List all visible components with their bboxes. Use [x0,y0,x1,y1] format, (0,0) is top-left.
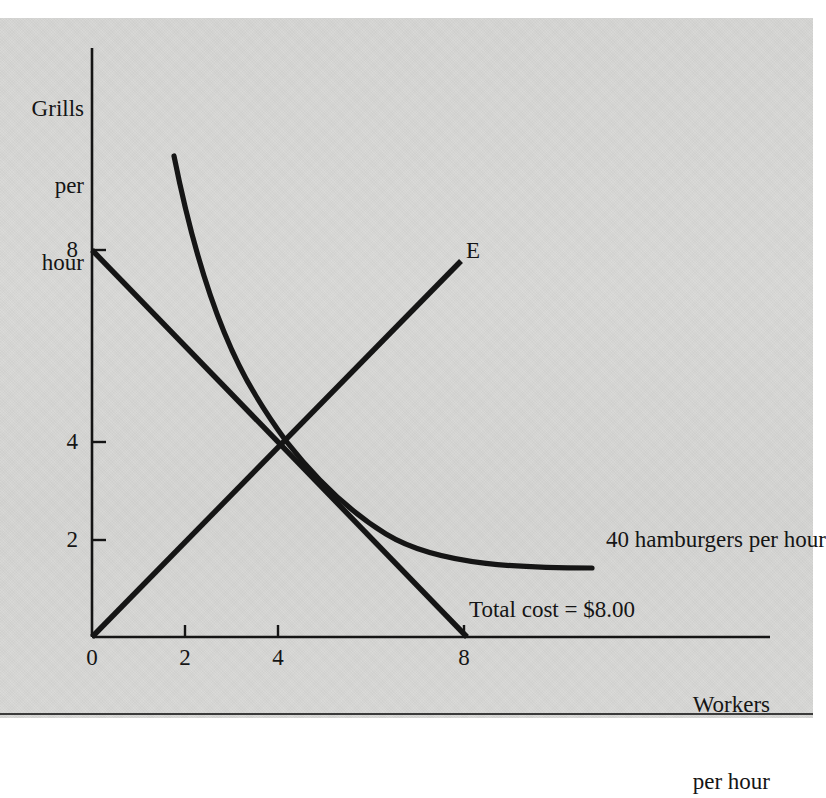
x-tick-label-8: 8 [448,645,480,671]
y-axis-ticks [92,250,106,540]
y-tick-label-4: 4 [48,429,78,455]
y-tick-label-2: 2 [48,527,78,553]
isoquant-curve [174,156,592,568]
y-tick-label-8: 8 [48,237,78,263]
y-axis-title-line-1: Grills [14,96,84,122]
isoquant-label: 40 hamburgers per hour [606,527,826,553]
page-bottom-margin [0,718,813,738]
isocost-label: Total cost = $8.00 [469,597,635,623]
expansion-path-line [92,261,461,637]
x-axis-title-line-2: per hour [600,769,770,795]
y-axis-title-line-2: per [14,173,84,199]
page-bottom-rule [0,713,813,715]
y-axis-title: Grills per hour [14,44,84,327]
x-axis-ticks [185,625,464,637]
x-tick-label-4: 4 [262,645,294,671]
expansion-path-label: E [466,238,480,264]
x-tick-label-0: 0 [76,645,108,671]
x-tick-label-2: 2 [169,645,201,671]
